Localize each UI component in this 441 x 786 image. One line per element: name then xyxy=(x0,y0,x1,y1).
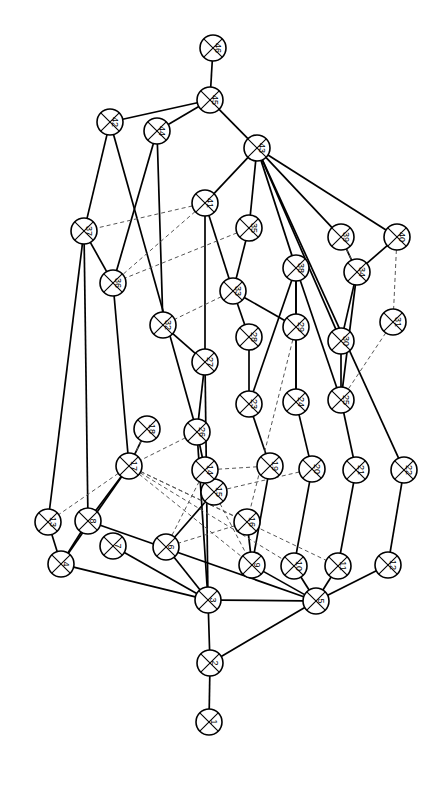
node-label: 3 xyxy=(208,597,218,602)
graph-edge-solid xyxy=(90,242,106,271)
node-label: 5 xyxy=(316,598,326,603)
graph-node[interactable]: 38 xyxy=(283,255,309,281)
node-label: 35 xyxy=(249,223,259,233)
graph-node[interactable]: 37 xyxy=(71,218,97,244)
graph-node[interactable]: 26 xyxy=(184,419,210,445)
node-label: 40 xyxy=(397,232,407,242)
graph-edge-dashed xyxy=(125,233,237,278)
graph-node[interactable]: 1 xyxy=(196,709,222,735)
graph-node[interactable]: 9 xyxy=(239,552,265,578)
graph-node[interactable]: 46 xyxy=(200,35,226,61)
graph-node[interactable]: 20 xyxy=(299,456,325,482)
graph-edge-solid xyxy=(84,244,88,508)
graph-node[interactable]: 2 xyxy=(197,650,223,676)
graph-edge-solid xyxy=(323,577,331,590)
graph-edge-solid xyxy=(174,557,200,590)
graph-node[interactable]: 12 xyxy=(375,552,401,578)
graph-node[interactable]: 45 xyxy=(197,87,223,113)
graph-node[interactable]: 36 xyxy=(100,270,126,296)
graph-node[interactable]: 35 xyxy=(236,215,262,241)
graph-node[interactable]: 44 xyxy=(144,118,170,144)
graph-edge-solid xyxy=(209,215,229,278)
graph-node[interactable]: 39 xyxy=(328,224,354,250)
graph-node[interactable]: 27 xyxy=(192,349,218,375)
graph-node[interactable]: 18 xyxy=(134,416,160,442)
graph-edge-solid xyxy=(344,413,354,458)
graph-node[interactable]: 29 xyxy=(283,314,309,340)
graph-node[interactable]: 17 xyxy=(116,453,142,479)
graph-edge-solid xyxy=(249,535,251,552)
node-label: 22 xyxy=(404,465,414,475)
graph-node[interactable]: 13 xyxy=(35,509,61,535)
graph-edge-solid xyxy=(299,415,309,457)
node-label: 9 xyxy=(252,562,262,567)
graph-node[interactable]: 21 xyxy=(343,457,369,483)
graph-node[interactable]: 24 xyxy=(283,389,309,415)
graph-node[interactable]: 4 xyxy=(48,551,74,577)
graph-edge-solid xyxy=(340,483,353,553)
graph-edge-solid xyxy=(114,135,194,420)
graph-node[interactable]: 40 xyxy=(384,224,410,250)
node-label: 21 xyxy=(356,465,366,475)
node-label: 24 xyxy=(296,397,306,407)
node-label: 20 xyxy=(312,464,322,474)
graph-edge-solid xyxy=(253,416,266,453)
node-label: 8 xyxy=(88,518,98,523)
dashed-edge-layer xyxy=(59,206,397,560)
node-label: 17 xyxy=(129,461,139,471)
graph-edge-solid xyxy=(114,296,128,453)
graph-node[interactable]: 41 xyxy=(192,190,218,216)
graph-node[interactable]: 28 xyxy=(236,324,262,350)
graph-edge-solid xyxy=(221,600,303,601)
node-label: 23 xyxy=(249,399,259,409)
graph-edge-dashed xyxy=(175,297,222,320)
node-label: 34 xyxy=(357,267,367,277)
graph-svg: 4645444342414039383736353433323130292827… xyxy=(0,0,441,786)
graph-node[interactable]: 23 xyxy=(236,391,262,417)
node-label: 41 xyxy=(205,198,215,208)
node-label: 11 xyxy=(338,561,348,570)
node-label: 42 xyxy=(110,117,120,127)
node-label: 10 xyxy=(294,561,304,571)
graph-edge-solid xyxy=(198,375,203,419)
graph-edge-dashed xyxy=(218,467,257,469)
graph-node[interactable]: 16 xyxy=(234,509,260,535)
graph-node[interactable]: 31 xyxy=(380,309,406,335)
graph-edge-dashed xyxy=(172,482,199,536)
graph-node[interactable]: 30 xyxy=(328,328,354,354)
node-label: 29 xyxy=(296,322,306,332)
graph-node[interactable]: 6 xyxy=(153,534,179,560)
graph-edge-solid xyxy=(200,445,203,458)
graph-node[interactable]: 10 xyxy=(281,553,307,579)
solid-edge-layer xyxy=(50,61,402,709)
graph-node[interactable]: 25 xyxy=(328,387,354,413)
graph-node[interactable]: 43 xyxy=(244,135,270,161)
node-layer: 4645444342414039383736353433323130292827… xyxy=(35,35,417,735)
graph-edge-solid xyxy=(219,109,248,138)
node-label: 1 xyxy=(209,719,219,724)
graph-node[interactable]: 34 xyxy=(344,259,370,285)
node-label: 27 xyxy=(205,357,215,367)
graph-node[interactable]: 33 xyxy=(220,278,246,304)
graph-node[interactable]: 3 xyxy=(195,587,221,613)
graph-node[interactable]: 5 xyxy=(303,588,329,614)
graph-edge-solid xyxy=(173,334,195,354)
graph-node[interactable]: 8 xyxy=(75,508,101,534)
node-label: 30 xyxy=(341,336,351,346)
node-label: 36 xyxy=(113,278,123,288)
node-label: 6 xyxy=(166,544,176,549)
graph-node[interactable]: 32 xyxy=(150,312,176,338)
graph-node[interactable]: 22 xyxy=(391,457,417,483)
node-label: 46 xyxy=(213,43,223,53)
graph-node[interactable]: 7 xyxy=(100,533,126,559)
graph-node[interactable]: 14 xyxy=(192,457,218,483)
graph-edge-solid xyxy=(50,244,83,509)
node-label: 12 xyxy=(388,560,398,570)
graph-node[interactable]: 11 xyxy=(325,553,351,579)
graph-canvas: 4645444342414039383736353433323130292827… xyxy=(0,0,441,786)
node-label: 15 xyxy=(214,487,224,497)
node-label: 25 xyxy=(341,395,351,405)
graph-node[interactable]: 42 xyxy=(97,109,123,135)
graph-node[interactable]: 19 xyxy=(257,453,283,479)
node-label: 13 xyxy=(48,517,58,527)
